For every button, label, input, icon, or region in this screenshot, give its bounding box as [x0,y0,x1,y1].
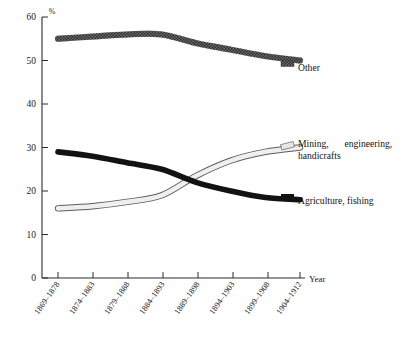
y-tick-label-30: 30 [27,143,37,153]
x-tick-label-1: 1874–1883 [68,280,97,316]
x-tick-label-6: 1899–1908 [243,280,272,316]
x-axis-title: Year [309,274,326,284]
x-tick-label-7: 1904–1912 [275,280,304,316]
y-axis-unit-label: % [49,7,56,16]
series-label-other: Other [298,62,320,73]
series-label-mining-part1: Mining, [298,138,329,149]
series-label-other-group: Other [298,57,320,75]
chart-figure: 0 10 20 30 40 50 60 % Year [0,0,414,340]
legend-swatch-agriculture [281,194,294,200]
series-label-agriculture: Agriculture, fishing [298,195,374,206]
y-tick-label-60: 60 [27,12,37,22]
series-layer [58,34,300,209]
x-tick-labels: 1869–1878 1874–1883 1879–1888 1884–1893 … [33,280,304,316]
y-tick-label-40: 40 [27,99,37,109]
x-tick-label-2: 1879–1888 [103,280,132,316]
y-tick-label-20: 20 [27,186,37,196]
chart-plot-area: 0 10 20 30 40 50 60 % Year [0,0,414,340]
y-axis: 0 10 20 30 40 50 60 % [27,7,56,283]
x-axis-ticks [58,272,300,278]
y-axis-ticks [42,17,48,278]
x-tick-label-5: 1894–1903 [208,280,237,316]
legend [281,61,295,200]
series-label-mining-part3: handicrafts [298,150,341,161]
x-tick-label-0: 1869–1878 [33,280,62,316]
x-axis: Year [42,272,326,284]
series-other [58,34,300,61]
series-agriculture [58,152,300,200]
y-tick-label-10: 10 [27,230,37,240]
x-tick-label-4: 1889–1898 [173,280,202,316]
x-tick-label-3: 1884–1893 [138,280,167,316]
series-label-mining-part2: engineering, [344,138,392,149]
legend-swatch-other [281,61,294,67]
series-label-agriculture-group: Agriculture, fishing [298,190,374,208]
y-tick-label-50: 50 [27,56,37,66]
y-tick-label-0: 0 [31,273,36,283]
series-label-mining-group: Mining, engineering, handicrafts [298,138,392,161]
